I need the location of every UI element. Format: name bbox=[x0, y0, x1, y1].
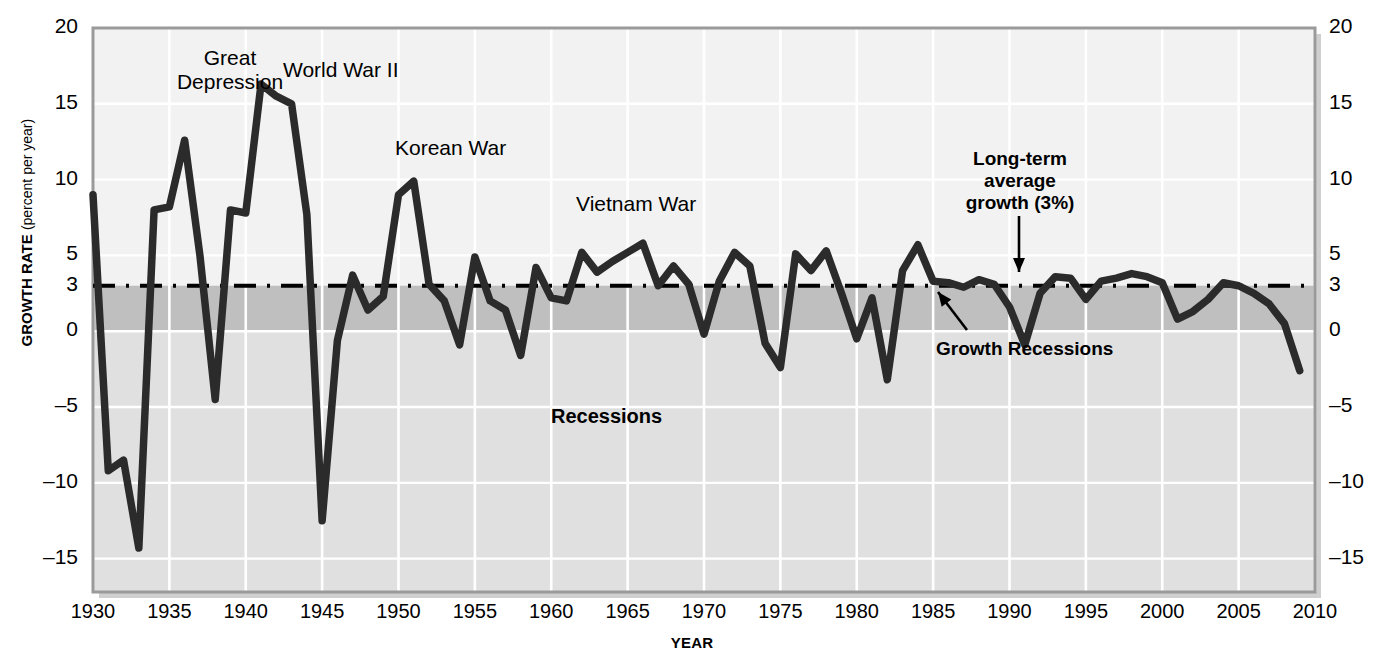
annotation-korean-war: Korean War bbox=[395, 136, 615, 160]
y-tick-label-right: –10 bbox=[1329, 469, 1384, 493]
y-tick-label: 10 bbox=[0, 166, 78, 190]
annotation-growth-recessions: Growth Recessions bbox=[936, 338, 1196, 360]
y-tick-label-right: 15 bbox=[1329, 90, 1384, 114]
y-tick-label: 15 bbox=[0, 90, 78, 114]
y-tick-label-right: 0 bbox=[1329, 317, 1384, 341]
annotation-long-term-line3: growth (3%) bbox=[905, 192, 1135, 214]
annotation-vietnam-war: Vietnam War bbox=[576, 192, 796, 216]
annotation-long-term-line1: Long-term bbox=[905, 148, 1135, 170]
y-tick-label-right: –15 bbox=[1329, 545, 1384, 569]
y-tick-label: 0 bbox=[0, 317, 78, 341]
y-tick-label-right: 5 bbox=[1329, 241, 1384, 265]
y-tick-label: 20 bbox=[0, 14, 78, 38]
annotation-long-term-line2: average bbox=[905, 170, 1135, 192]
y-tick-label: –10 bbox=[0, 469, 78, 493]
chart-canvas bbox=[0, 0, 1384, 671]
y-tick-label: –5 bbox=[0, 393, 78, 417]
annotation-long-term-average: Long-term average growth (3%) bbox=[905, 148, 1135, 214]
y-tick-label-right: 20 bbox=[1329, 14, 1384, 38]
y-tick-label-right: –5 bbox=[1329, 393, 1384, 417]
annotation-world-war-ii: World War II bbox=[283, 58, 513, 82]
x-axis-title: YEAR bbox=[0, 634, 1384, 651]
chart-figure: GROWTH RATE (percent per year) Great Dep… bbox=[0, 0, 1384, 671]
y-tick-label: 5 bbox=[0, 241, 78, 265]
y-tick-label: 3 bbox=[0, 272, 78, 296]
annotation-recessions: Recessions bbox=[551, 405, 751, 428]
y-tick-label-right: 3 bbox=[1329, 272, 1384, 296]
y-tick-label: –15 bbox=[0, 545, 78, 569]
x-tick-label: 2010 bbox=[1260, 600, 1370, 623]
y-tick-label-right: 10 bbox=[1329, 166, 1384, 190]
